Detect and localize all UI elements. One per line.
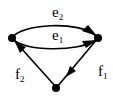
directed-graph-diagram: e2 e1 f1 f2 bbox=[0, 0, 113, 97]
node-bottom bbox=[52, 84, 60, 92]
node-left bbox=[8, 34, 16, 42]
arrowhead-e2-icon bbox=[82, 25, 97, 36]
label-f2: f2 bbox=[15, 66, 25, 84]
arrowhead-f1-icon bbox=[66, 66, 76, 77]
edge-f1 bbox=[57, 38, 98, 87]
label-e1: e1 bbox=[52, 27, 63, 45]
node-right bbox=[94, 34, 102, 42]
label-e2: e2 bbox=[52, 4, 63, 22]
label-f1: f1 bbox=[98, 63, 108, 81]
